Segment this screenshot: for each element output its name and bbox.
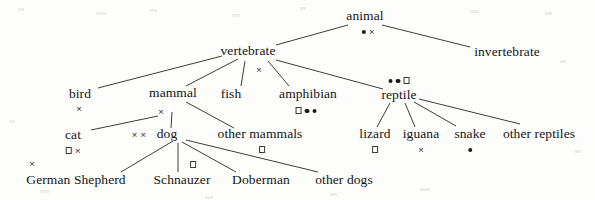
tree-edge-animal-to-vertebrate (276, 25, 348, 45)
marker-group-schnauzer (188, 156, 198, 172)
tree-edge-vertebrate-to-reptile (276, 60, 383, 89)
tree-diagram-canvas: animal×invertebratevertebrate×bird×mamma… (0, 0, 595, 200)
cross-icon: × (76, 104, 82, 114)
tree-node-dog[interactable]: dog (157, 127, 178, 141)
marker-group-bird: × (75, 100, 84, 116)
tree-node-vertebrate[interactable]: vertebrate (221, 44, 276, 58)
tree-edge-vertebrate-to-amphibian (268, 61, 289, 86)
cross-icon: × (418, 145, 424, 155)
open-square-icon (403, 77, 410, 84)
tree-node-fish[interactable]: fish (221, 87, 242, 101)
tree-node-cat[interactable]: cat (65, 128, 81, 142)
marker-group-other_mammals (257, 141, 267, 157)
tree-node-other_reptiles[interactable]: other reptiles (503, 127, 575, 141)
tree-edge-animal-to-invertebrate (382, 25, 470, 47)
marker-group-dog: ×× (130, 126, 148, 142)
marker-group-german_shepherd: × (28, 155, 37, 171)
tree-edge-vertebrate-to-fish (241, 61, 245, 86)
marker-group-reptile (387, 72, 412, 88)
marker-group-lizard (370, 141, 380, 157)
filled-circle-icon (312, 109, 316, 113)
filled-circle-icon (388, 79, 392, 83)
cross-icon: × (141, 130, 147, 140)
marker-group-amphibian (294, 102, 319, 118)
filled-circle-icon (361, 30, 365, 34)
cross-icon: × (369, 27, 375, 37)
tree-edge-reptile-to-snake (414, 102, 456, 126)
marker-group-iguana: × (417, 141, 426, 157)
cross-icon: × (75, 146, 81, 156)
cross-icon: × (256, 65, 262, 75)
marker-group-cat: × (64, 142, 83, 158)
tree-edge-reptile-to-other_reptiles (419, 99, 520, 124)
tree-node-bird[interactable]: bird (69, 87, 91, 101)
tree-node-german_shepherd[interactable]: German Shepherd (26, 173, 125, 187)
filled-circle-icon (396, 79, 400, 83)
tree-node-lizard[interactable]: lizard (359, 127, 390, 141)
filled-circle-icon (468, 148, 472, 152)
tree-node-other_mammals[interactable]: other mammals (218, 127, 303, 141)
tree-edge-reptile-to-iguana (405, 103, 415, 127)
tree-node-animal[interactable]: animal (346, 9, 383, 23)
tree-node-mammal[interactable]: mammal (149, 86, 197, 100)
tree-edge-mammal-to-cat (91, 116, 158, 130)
open-square-icon (259, 146, 266, 153)
tree-node-doberman[interactable]: Doberman (232, 173, 290, 187)
tree-node-iguana[interactable]: iguana (403, 127, 440, 141)
marker-group-mammal: × (157, 103, 166, 119)
open-square-icon (372, 146, 379, 153)
tree-node-schnauzer[interactable]: Schnauzer (153, 173, 210, 187)
tree-node-invertebrate[interactable]: invertebrate (474, 45, 540, 59)
open-square-icon (295, 107, 302, 114)
marker-group-snake (466, 141, 474, 157)
tree-edge-dog-to-other_dogs (186, 140, 318, 172)
marker-group-animal: × (360, 23, 376, 39)
tree-node-amphibian[interactable]: amphibian (279, 87, 337, 101)
tree-edge-mammal-to-other_mammals (186, 102, 234, 128)
tree-edge-vertebrate-to-bird (98, 56, 222, 88)
marker-group-vertebrate: × (255, 61, 264, 77)
cross-icon: × (132, 130, 138, 140)
cross-icon: × (29, 159, 35, 169)
cross-icon: × (158, 107, 164, 117)
open-square-icon (190, 161, 197, 168)
tree-node-snake[interactable]: snake (454, 127, 485, 141)
filled-circle-icon (305, 109, 309, 113)
tree-node-reptile[interactable]: reptile (381, 88, 416, 102)
tree-edge-dog-to-german_shepherd (121, 141, 173, 172)
tree-edge-reptile-to-lizard (377, 103, 390, 127)
tree-node-other_dogs[interactable]: other dogs (315, 173, 373, 187)
open-square-icon (65, 147, 72, 154)
